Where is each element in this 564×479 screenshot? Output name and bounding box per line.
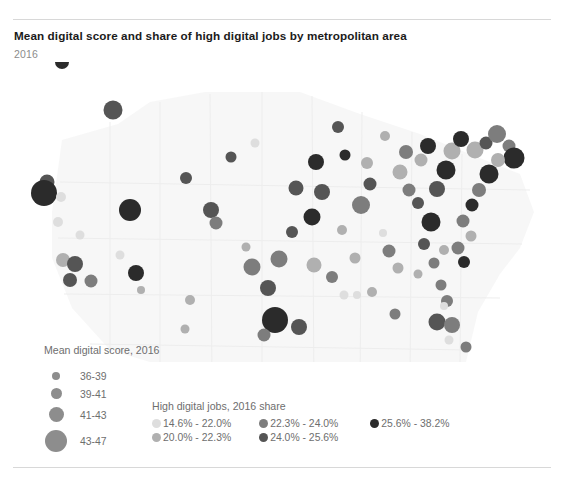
page-title: Mean digital score and share of high dig… [14,29,407,42]
metro-bubble[interactable] [412,197,424,209]
metro-bubble[interactable] [383,245,396,258]
metro-bubble[interactable] [31,180,57,206]
color-legend-item[interactable]: 25.6% - 38.2% [370,418,449,429]
metro-bubble[interactable] [488,125,506,143]
size-legend-label: 41-43 [80,409,107,420]
page-subtitle: 2016 [14,48,38,60]
metro-bubble[interactable] [380,131,390,141]
color-legend-items: 14.6% - 22.0%20.0% - 22.3%22.3% - 24.0%2… [152,418,450,443]
size-legend-swatch [45,430,67,452]
metro-bubble[interactable] [466,231,477,242]
metro-bubble[interactable] [422,213,441,232]
metro-bubble[interactable] [367,287,377,297]
metro-bubble[interactable] [326,271,338,283]
metro-bubble[interactable] [291,319,307,335]
color-legend-item[interactable]: 22.3% - 24.0% [259,418,338,429]
metro-bubble[interactable] [458,256,470,268]
bubble-map [0,62,564,362]
metro-bubble[interactable] [63,273,77,287]
metro-bubble[interactable] [116,251,125,260]
metro-bubble[interactable] [452,242,465,255]
size-legend-swatch [49,407,64,422]
metro-bubble[interactable] [85,275,98,288]
metro-bubble[interactable] [429,258,440,269]
metro-bubble[interactable] [461,342,472,353]
color-legend-column: 22.3% - 24.0%24.0% - 25.6% [259,418,338,443]
metro-bubble[interactable] [181,325,190,334]
metro-bubble[interactable] [314,184,330,200]
metro-bubble[interactable] [466,199,479,212]
divider-bottom [13,467,551,468]
metro-bubble[interactable] [480,165,499,184]
metro-bubble[interactable] [286,226,298,238]
metro-bubble[interactable] [308,154,324,170]
metro-bubble[interactable] [440,302,448,310]
metro-bubble[interactable] [399,145,413,159]
color-legend-item[interactable]: 14.6% - 22.0% [152,418,231,429]
color-legend-item[interactable]: 24.0% - 25.6% [259,432,338,443]
metro-bubble[interactable] [128,265,144,281]
metro-bubble[interactable] [332,121,344,133]
metro-bubble[interactable] [353,291,361,299]
metro-bubble[interactable] [393,165,408,180]
color-legend-label: 25.6% - 38.2% [381,418,449,429]
metro-bubble[interactable] [429,181,445,197]
metro-bubble[interactable] [251,139,260,148]
color-legend-swatch [152,433,161,442]
metro-bubble[interactable] [242,243,251,252]
metro-bubble[interactable] [350,253,361,264]
metro-bubble[interactable] [429,314,446,331]
metro-bubble[interactable] [55,62,69,69]
size-legend-label: 36-39 [80,371,107,382]
metro-bubble[interactable] [244,259,261,276]
color-legend-label: 24.0% - 25.6% [270,432,338,443]
metro-bubble[interactable] [352,196,370,214]
metro-bubble[interactable] [203,202,219,218]
metro-bubble[interactable] [119,199,141,221]
metro-bubble[interactable] [504,148,525,169]
metro-bubble[interactable] [67,256,83,272]
metro-bubble[interactable] [104,101,123,120]
metro-bubble[interactable] [393,263,404,274]
metro-bubble[interactable] [53,217,63,227]
metro-bubble[interactable] [445,336,454,345]
metro-bubble[interactable] [271,251,288,268]
metro-bubble[interactable] [403,184,416,197]
metro-bubble[interactable] [472,183,486,197]
metro-bubble[interactable] [415,154,428,167]
metro-bubble[interactable] [56,192,66,202]
metro-bubble[interactable] [180,172,192,184]
metro-bubble[interactable] [210,217,223,230]
metro-bubble[interactable] [390,309,401,320]
metro-bubble[interactable] [304,209,321,226]
metro-bubble[interactable] [258,329,271,342]
metro-bubble[interactable] [307,258,322,273]
metro-bubble[interactable] [414,270,423,279]
metro-bubble[interactable] [439,245,449,255]
metro-bubble[interactable] [457,215,470,228]
metro-bubble[interactable] [491,153,505,167]
color-legend-swatch [259,433,268,442]
metro-bubble[interactable] [340,291,349,300]
metro-bubble[interactable] [137,286,145,294]
metro-bubble[interactable] [437,161,456,180]
metro-bubble[interactable] [420,138,436,154]
metro-bubble[interactable] [436,280,447,291]
metro-bubble[interactable] [337,225,347,235]
metro-bubble[interactable] [444,317,460,333]
metro-bubble[interactable] [379,229,387,237]
metro-bubble[interactable] [453,131,469,147]
metro-bubble[interactable] [226,152,237,163]
metro-bubble[interactable] [340,150,351,161]
metro-bubble[interactable] [364,178,377,191]
metro-bubble[interactable] [418,238,430,250]
metro-bubble[interactable] [76,231,85,240]
size-legend-title: Mean digital score, 2016 [44,344,159,356]
metro-bubble[interactable] [260,280,276,296]
size-legend-label: 39-41 [80,388,107,399]
color-legend-swatch [259,419,268,428]
metro-bubble[interactable] [185,295,195,305]
color-legend-item[interactable]: 20.0% - 22.3% [152,432,231,443]
metro-bubble[interactable] [361,157,373,169]
metro-bubble[interactable] [289,181,304,196]
